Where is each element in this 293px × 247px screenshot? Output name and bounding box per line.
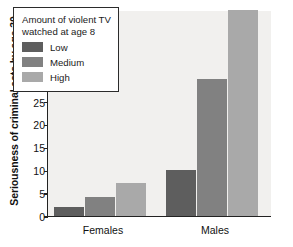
y-tick-mark (44, 102, 48, 103)
bar (85, 197, 115, 216)
legend-entry: High (22, 70, 111, 84)
legend: Amount of violent TV watched at age 8 Lo… (13, 7, 119, 92)
legend-swatch-icon (22, 42, 43, 52)
x-tick-label: Males (201, 224, 229, 236)
y-tick-mark (44, 171, 48, 172)
y-tick-label: 20 (22, 120, 45, 130)
x-tick-label: Females (83, 224, 123, 236)
bar-chart-figure: Seriousness of criminal acts by age 30 0… (0, 0, 293, 247)
legend-entry-label: High (50, 72, 70, 83)
bar (166, 170, 196, 216)
legend-entry-list: LowMediumHigh (22, 40, 111, 84)
y-tick-label: 25 (22, 98, 45, 108)
legend-entry: Low (22, 40, 111, 54)
legend-title: Amount of violent TV watched at age 8 (22, 14, 111, 37)
legend-entry-label: Low (50, 42, 68, 53)
x-axis-tick-labels: FemalesMales (47, 224, 271, 240)
y-tick-mark (44, 193, 48, 194)
y-tick-mark (44, 148, 48, 149)
bar (54, 207, 84, 216)
y-tick-mark (44, 216, 48, 217)
y-tick-label: 10 (22, 166, 45, 176)
y-tick-label: 5 (22, 189, 45, 199)
y-tick-label: 15 (22, 143, 45, 153)
y-tick-mark (44, 125, 48, 126)
bar (228, 10, 258, 216)
y-tick-label: 0 (22, 212, 45, 222)
legend-swatch-icon (22, 72, 43, 82)
legend-swatch-icon (22, 57, 43, 67)
legend-entry-label: Medium (50, 57, 84, 68)
bar (116, 183, 146, 216)
bar (197, 79, 227, 216)
legend-entry: Medium (22, 55, 111, 69)
